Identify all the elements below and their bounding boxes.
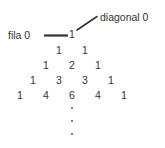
triangle-cell: 1: [52, 45, 66, 56]
row-label: fila 0: [8, 30, 30, 41]
triangle-cell: 1: [78, 45, 92, 56]
triangle-cell: 1: [13, 90, 27, 101]
triangle-cell: 3: [52, 75, 66, 86]
diagonal-label: diagonal 0: [100, 12, 148, 23]
triangle-cell: 1: [39, 60, 53, 71]
triangle-cell: 2: [65, 60, 79, 71]
triangle-cell: 4: [39, 90, 53, 101]
triangle-cell: 3: [78, 75, 92, 86]
triangle-cell: 6: [65, 90, 79, 101]
pascals-triangle-figure: fila 0 diagonal 0 1 1 1 1 2 1 1 3 3 1 1 …: [0, 0, 165, 148]
triangle-cell: 4: [91, 90, 105, 101]
triangle-cell: 1: [26, 75, 40, 86]
triangle-cell: 1: [117, 90, 131, 101]
triangle-cell: 1: [104, 75, 118, 86]
triangle-cell: 1: [65, 29, 79, 40]
triangle-cell: 1: [91, 60, 105, 71]
diagonal-leader-line: [77, 17, 97, 31]
